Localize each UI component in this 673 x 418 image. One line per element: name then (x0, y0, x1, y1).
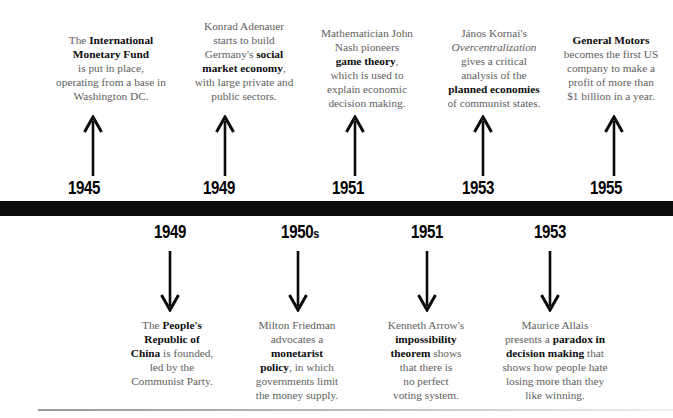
year-label-above-1953: 1953 (447, 178, 509, 199)
event-text-below-1951: Kenneth Arrow'simpossibilitytheorem show… (362, 318, 490, 403)
arrow-up-icon (344, 115, 366, 177)
timeline-bar (0, 201, 673, 216)
arrow-down-icon (539, 250, 561, 312)
arrow-up-icon (82, 115, 104, 177)
event-text-above-1953: János Kornai'sOvercentralizationgives a … (422, 26, 566, 111)
event-text-below-1950s: Milton Friedmanadvocates amonetaristpoli… (234, 318, 360, 403)
event-text-below-1949: The People'sRepublic ofChina is founded,… (108, 318, 236, 388)
arrow-down-icon (287, 250, 309, 312)
event-text-below-1953: Maurice Allaispresents a paradox indecis… (485, 318, 625, 403)
year-label-above-1951: 1951 (317, 178, 379, 199)
event-text-above-1951: Mathematician JohnNash pioneersgame theo… (293, 26, 441, 111)
timeline-infographic: The InternationalMonetary Fundis put in … (0, 0, 673, 418)
arrow-up-icon (214, 115, 236, 177)
arrow-up-icon (472, 115, 494, 177)
footer-divider (38, 409, 673, 411)
year-label-above-1949: 1949 (188, 178, 250, 199)
arrow-down-icon (159, 250, 181, 312)
year-label-below-1953: 1953 (519, 222, 581, 243)
event-text-above-1955: General Motorsbecomes the first UScompan… (548, 33, 673, 103)
year-label-above-1945: 1945 (53, 178, 115, 199)
year-label-below-1950s: 1950s (267, 222, 332, 243)
arrow-up-icon (603, 115, 625, 177)
year-label-above-1955: 1955 (575, 178, 637, 199)
arrow-down-icon (416, 250, 438, 312)
year-label-below-1949: 1949 (139, 222, 201, 243)
year-label-below-1951: 1951 (396, 222, 458, 243)
